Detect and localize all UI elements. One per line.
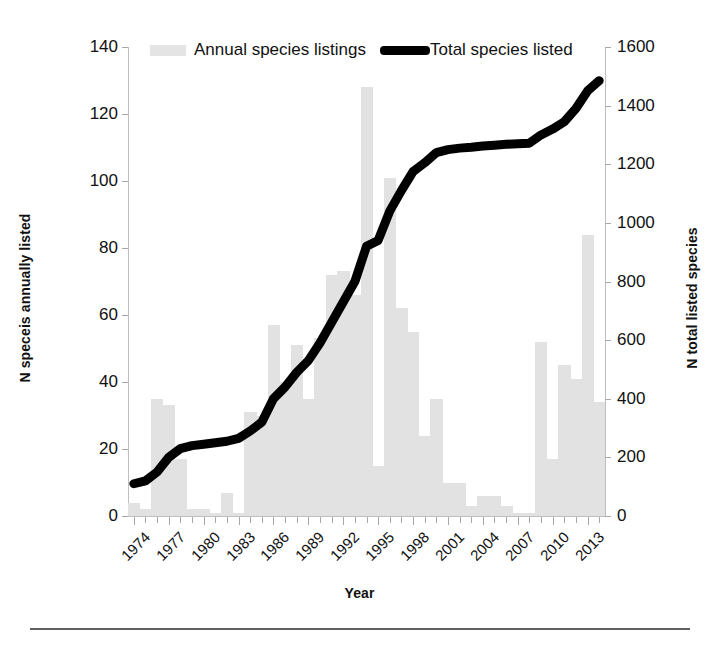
bar [512,513,524,516]
x-axis-tick [413,517,414,525]
bar [151,399,163,516]
x-axis-tick-label: 2010 [537,529,571,563]
x-axis-tick [471,517,472,523]
bar [268,325,280,516]
y-axis-right-tick [605,164,611,165]
bar [500,506,512,516]
x-axis-tick [180,517,181,523]
x-axis-tick [192,517,193,523]
y-axis-right-tick [605,457,611,458]
bar [186,509,198,516]
x-axis-tick [297,517,298,523]
y-axis-right-tick-label: 0 [617,507,626,524]
y-axis-right-tick [605,223,611,224]
bar [593,402,605,516]
bar [326,275,338,516]
x-axis-tick-label: 1983 [223,529,257,563]
x-axis-title: Year [0,585,719,601]
x-axis-tick [239,517,240,525]
x-axis-tick [506,517,507,523]
bar [140,509,152,516]
x-axis-tick [529,517,530,523]
y-axis-left-title: N speceis annually listed [17,168,33,428]
x-axis-tick-label: 1986 [258,529,292,563]
y-axis-left-tick-label: 100 [90,172,118,189]
x-axis-tick [460,517,461,523]
bar [547,459,559,516]
x-axis-tick-label: 2013 [572,529,606,563]
x-axis-tick [262,517,263,523]
footer-divider [30,628,690,630]
x-axis-tick [483,517,484,525]
bar [163,405,175,516]
x-axis-tick [308,517,309,525]
x-axis-tick [332,517,333,523]
x-axis-tick [355,517,356,523]
bar [279,382,291,516]
y-axis-right-tick [605,516,611,517]
bar [233,513,245,516]
bar [244,412,256,516]
bar [535,342,547,516]
bar [372,466,384,516]
bar [198,509,210,516]
plot-area: 020406080100120140 020040060080010001200… [128,47,605,516]
y-axis-left-tick [122,114,128,115]
bar [175,459,187,516]
y-axis-left-tick-label: 40 [99,373,118,390]
x-axis-tick [390,517,391,523]
bar [465,506,477,516]
x-axis-tick [169,517,170,525]
bar [221,493,233,516]
y-axis-right-tick [605,340,611,341]
x-axis-tick [157,517,158,523]
y-axis-right-tick-label: 1600 [617,38,655,55]
x-axis-tick [250,517,251,523]
x-axis-tick [425,517,426,523]
bar [489,496,501,516]
bar [407,332,419,516]
bar [419,436,431,516]
y-axis-left-tick [122,248,128,249]
bar [396,308,408,516]
bar [337,271,349,516]
bar [570,379,582,516]
x-axis-tick [145,517,146,523]
x-axis-tick [320,517,321,523]
y-axis-left-tick [122,181,128,182]
y-axis-right-tick-label: 400 [617,390,645,407]
x-axis-tick-label: 1995 [363,529,397,563]
bar [361,87,373,516]
y-axis-left-tick [122,315,128,316]
y-axis-left-tick-label: 0 [109,507,118,524]
y-axis-right-tick-label: 600 [617,331,645,348]
x-axis-tick [564,517,565,523]
bar [430,399,442,516]
y-axis-left-tick-label: 60 [99,306,118,323]
bar [128,503,140,516]
y-axis-right-tick-label: 1000 [617,214,655,231]
y-axis-right-tick-label: 1200 [617,155,655,172]
y-axis-right-tick [605,399,611,400]
x-axis-tick-label: 2001 [432,529,466,563]
bar [477,496,489,516]
x-axis-tick [518,517,519,525]
bar [291,345,303,516]
x-axis-tick [378,517,379,525]
plot-content [128,47,605,516]
x-axis-tick [285,517,286,523]
x-axis-tick-label: 2004 [467,529,501,563]
x-axis-tick [134,517,135,525]
x-axis-tick-label: 1980 [188,529,222,563]
y-axis-right-title: N total listed species [684,168,700,428]
x-axis-tick [541,517,542,523]
bar [582,235,594,516]
y-axis-right-tick [605,106,611,107]
y-axis-right-tick [605,47,611,48]
y-axis-left-tick-label: 20 [99,440,118,457]
bar [454,483,466,517]
x-axis-tick [588,517,589,525]
bar [256,416,268,517]
x-axis-tick [448,517,449,525]
y-axis-right-tick-label: 200 [617,448,645,465]
